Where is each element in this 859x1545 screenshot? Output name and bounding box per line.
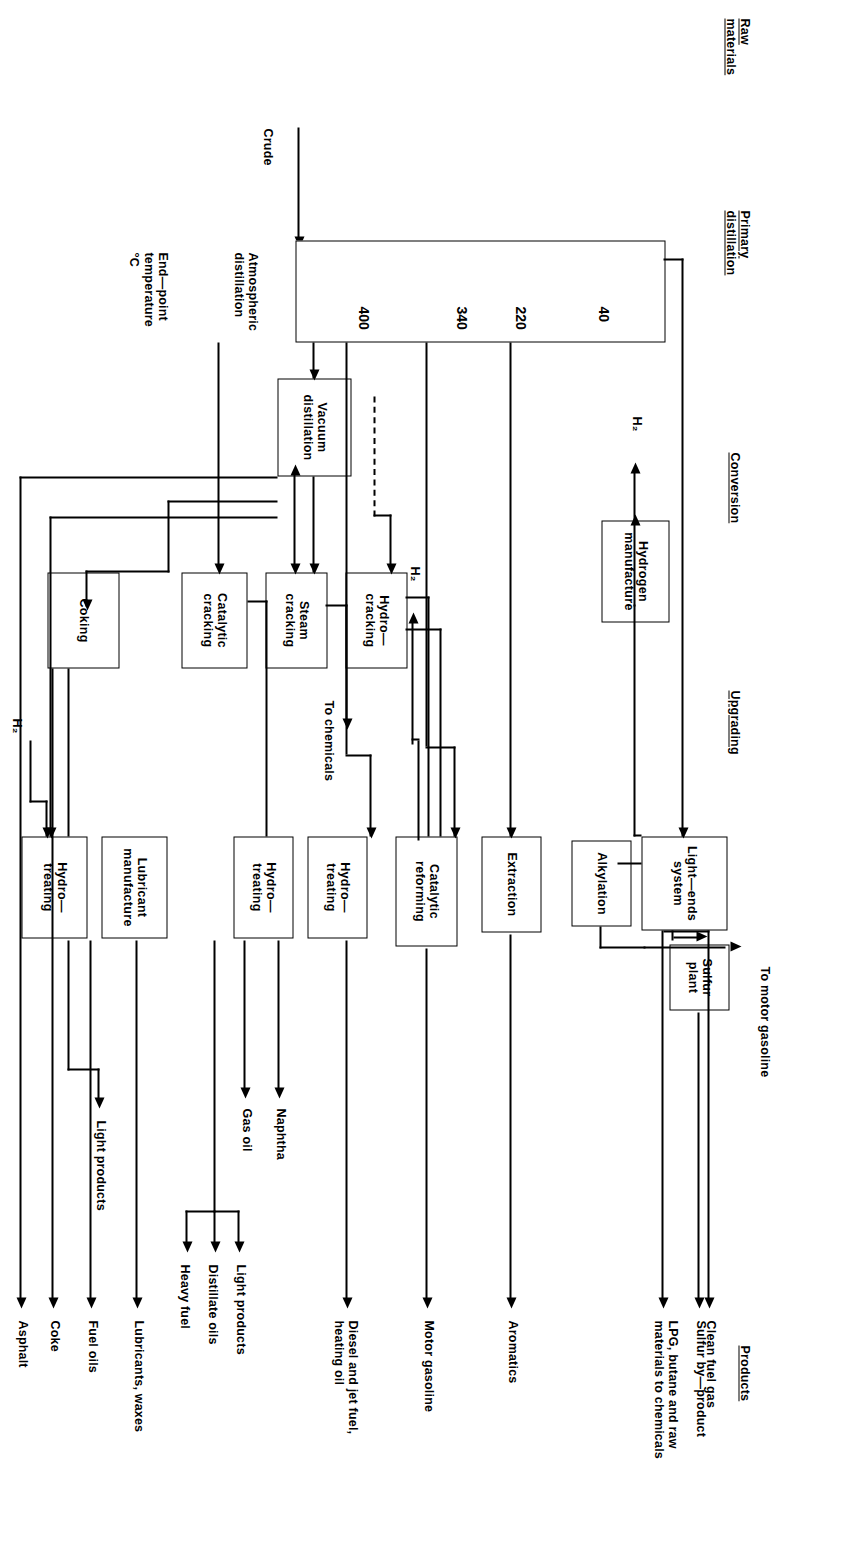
hydrocracking-optional-feed-dashed [373,396,375,516]
stream-label-heavy-fuel: Heavy fuel [177,1264,191,1329]
coke-line [51,668,53,1302]
to-reforming-entry [453,746,455,836]
vacuum-to-lube-drop [49,516,277,518]
vacuum-distillation-box: Vacuum distillation [277,378,351,476]
coke-arrow-icon [48,1297,58,1308]
sulfur-plant-box: Sulfur plant [669,944,729,1010]
h2-to-hydrotreating-3-line [29,740,31,802]
overhead-riser-a [663,258,683,260]
lubricant-manufacture-label: Lubricant manufacture [120,848,148,926]
light-ends-product-header [663,930,709,932]
cut-temperature-400: 400 [355,306,371,329]
gasoil-to-catcracking-line [217,342,219,564]
naphtha-arrow-icon [274,1087,284,1098]
catalytic-cracking-box: Catalytic cracking [181,572,247,668]
vacuum-gasoil-line [312,476,314,572]
product-label-fuel-oils: Fuel oils [85,1320,99,1373]
distillate-riser [345,754,371,756]
lpg-butane-arrow-icon [658,1297,668,1308]
vacuum-residue-drop [167,500,277,502]
crude-feed-line [297,127,299,237]
cut-temperature-40: 40 [595,306,611,322]
product-label-sulfur: Sulfur by—product [693,1320,707,1437]
catalytic-reforming-label: Catalytic reforming [412,860,440,921]
process-flow-canvas: Raw materials Primary distillation Conve… [0,0,859,1545]
overhead-to-light-ends-line [681,258,683,836]
coking-inlet-arrow-icon [82,599,92,610]
motor-gasoline-line [425,948,427,1302]
aromatics-arrow-icon [506,1297,516,1308]
product-label-diesel-jet: Diesel and jet fuel, heating oil [330,1320,359,1434]
stream-label-distillate-oils: Distillate oils [205,1264,219,1344]
steam-cracking-product-riser [325,604,347,606]
lubricants-waxes-line [135,940,137,1302]
light-products-coker-line [67,940,69,1070]
hydrotreating-1-label: Hydro— treating [323,862,351,912]
catcracking-to-hydrotreating-2 [265,600,267,836]
hydrocracking-box: Hydro— cracking [345,572,407,668]
hydrotreating-3-box: Hydro— treating [21,836,87,938]
hydrocracking-feed-riser [373,514,391,516]
hydrocracking-label: Hydro— cracking [362,593,390,647]
section-header-primary-distillation: Primary distillation [722,210,751,275]
reformer-h2-arrow-icon [408,612,418,623]
product-label-lpg-butane: LPG, butane and raw materials to chemica… [650,1320,679,1459]
light-ends-system-box: Light—ends system [641,836,727,930]
sulfur-by-product-line [697,1012,699,1302]
to-motor-gasoline-riser [643,946,725,948]
h2-to-hydrotreating-3-riser [29,800,47,802]
alkylation-outlet-line [599,926,601,948]
hydrocracking-feed-arrow-icon [386,563,396,574]
clean-fuel-gas-arrow-icon [704,1297,714,1308]
lubricant-manufacture-box: Lubricant manufacture [101,836,167,938]
clean-fuel-gas-line [707,930,709,1302]
h2-manufacture-feed-line [633,520,635,606]
hydrotreating-2-label: Hydro— treating [249,862,277,912]
section-header-upgrading: Upgrading [727,690,741,754]
hydrocracking-to-gasoline-line [427,596,429,836]
h2-product-arrow-icon [630,462,640,473]
section-header-products: Products [737,1345,751,1401]
coking-feed-riser [85,570,169,572]
vacuum-distillation-label: Vacuum distillation [300,394,328,460]
product-label-coke: Coke [47,1320,61,1351]
heavy-fuel-arrow-icon [182,1241,192,1252]
atmospheric-distillation-label: Atmospheric distillation [230,252,259,331]
catalytic-cracking-label: Catalytic cracking [200,593,228,648]
light-ends-outlet-drop [633,834,641,836]
steam-cracking-recycle-arrow-icon [290,464,300,475]
to-chemicals-label: To chemicals [321,700,335,781]
coking-to-hydrotreating-3 [67,668,69,836]
fuel-oils-arrow-icon [86,1297,96,1308]
steam-cracking-inlet-arrow-icon [290,563,300,574]
extraction-inlet-arrow-icon [506,827,516,838]
light-ends-to-h2-manufacture-line [633,604,635,836]
atmospheric-distillation-column [295,240,665,342]
to-chemicals-line [345,604,347,724]
cut-temperature-340: 340 [453,306,469,329]
light-products-coker-arrow-icon [94,1097,104,1108]
fuel-oils-line [89,940,91,1302]
section-header-raw-materials: Raw materials [722,18,751,75]
catalytic-cracking-inlet-arrow-icon [214,563,224,574]
reformer-h2-line [417,740,419,840]
asphalt-riser [19,476,277,478]
atm-bottoms-arrow-icon [309,369,319,380]
h2-label-from-reforming: H₂ [407,566,421,581]
steam-cracking-box: Steam cracking [265,572,327,668]
product-label-lubricants-waxes: Lubricants, waxes [131,1320,145,1432]
catcracker-split-trunk [213,940,215,1212]
diagram-page: Raw materials Primary distillation Conve… [0,0,859,1545]
cut-temperature-220: 220 [512,306,528,329]
light-products-cat-arrow-icon [234,1241,244,1252]
h2-hydrotreating-3-arrow-icon [42,827,52,838]
light-ends-to-alky-drop [617,862,641,864]
alkylation-riser [599,946,645,948]
hydrotreating-1-inlet-arrow-icon [366,827,376,838]
asphalt-line [19,476,21,1302]
alkylation-label: Alkylation [594,852,608,915]
product-label-motor-gasoline: Motor gasoline [421,1320,435,1412]
crude-label: Crude [260,128,274,165]
hydrocracking-product-riser-a [405,596,429,598]
catalytic-reforming-box: Catalytic reforming [395,836,457,946]
